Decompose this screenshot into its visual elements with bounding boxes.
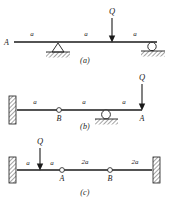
dim-label-c1: a <box>26 159 30 167</box>
dim-label-b3: a <box>122 98 126 106</box>
dim-label-a2: a <box>84 30 88 38</box>
hinge-c-A <box>60 168 65 173</box>
fixed-wall-support-c-right <box>153 157 160 183</box>
fixed-wall-support-c-left <box>9 157 16 183</box>
hinge-c-B <box>108 168 113 173</box>
hinge-b <box>57 108 62 113</box>
label-point-A-left: A <box>3 38 9 47</box>
beam-diagram-figure: A a a a Q (a) a a <box>0 0 170 201</box>
dim-label-a1: a <box>30 30 34 38</box>
load-label-Q-c: Q <box>37 136 43 146</box>
dim-label-c4: 2a <box>132 158 140 166</box>
dim-label-b2: a <box>82 98 86 106</box>
dim-label-c3: 2a <box>82 158 90 166</box>
dim-label-a3: a <box>133 30 137 38</box>
caption-b: (b) <box>0 122 170 131</box>
roller-support-a <box>148 42 156 50</box>
label-hinge-B-c: B <box>108 174 113 183</box>
dim-label-c2: a <box>50 159 54 167</box>
load-label-Q-b: Q <box>139 72 145 82</box>
fixed-wall-support-b <box>9 96 16 124</box>
roller-support-b <box>102 110 111 119</box>
caption-c: (c) <box>0 188 170 197</box>
pin-support-a <box>52 43 64 52</box>
label-hinge-A-c: A <box>59 174 65 183</box>
dim-label-b1: a <box>33 98 37 106</box>
load-label-Q-a: Q <box>109 6 115 16</box>
caption-a: (a) <box>0 56 170 65</box>
